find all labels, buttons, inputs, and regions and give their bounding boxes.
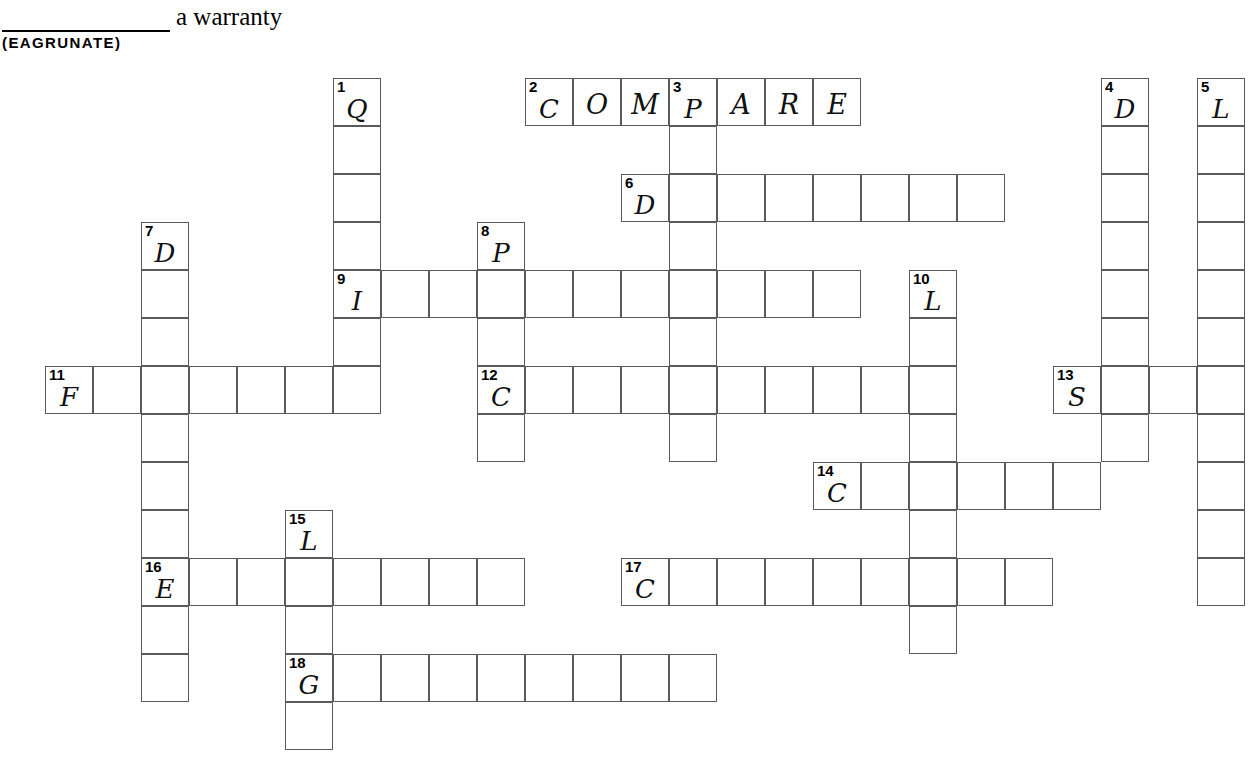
crossword-cell[interactable] [477,654,525,702]
crossword-cell[interactable] [429,558,477,606]
crossword-cell[interactable] [957,462,1005,510]
crossword-cell[interactable] [1197,558,1245,606]
crossword-cell[interactable] [909,174,957,222]
crossword-cell[interactable] [237,558,285,606]
crossword-cell[interactable] [141,654,189,702]
crossword-cell[interactable]: 9I [333,270,381,318]
crossword-cell[interactable] [1101,126,1149,174]
crossword-cell[interactable] [285,558,333,606]
crossword-cell[interactable] [381,270,429,318]
crossword-cell[interactable] [1197,414,1245,462]
crossword-cell[interactable] [333,654,381,702]
crossword-cell[interactable] [477,558,525,606]
crossword-cell[interactable] [717,558,765,606]
crossword-cell[interactable] [525,270,573,318]
crossword-cell[interactable]: 2C [525,78,573,126]
crossword-cell[interactable] [621,654,669,702]
crossword-cell[interactable] [1197,366,1245,414]
crossword-cell[interactable] [669,366,717,414]
crossword-cell[interactable] [477,318,525,366]
crossword-cell[interactable] [141,606,189,654]
crossword-cell[interactable] [381,558,429,606]
crossword-cell[interactable] [1101,414,1149,462]
crossword-cell[interactable] [861,462,909,510]
crossword-cell[interactable] [957,558,1005,606]
crossword-cell[interactable] [909,510,957,558]
crossword-cell[interactable] [477,270,525,318]
crossword-cell[interactable]: 8P [477,222,525,270]
crossword-cell[interactable] [669,654,717,702]
crossword-cell[interactable] [285,366,333,414]
crossword-cell[interactable] [669,414,717,462]
crossword-cell[interactable] [669,270,717,318]
crossword-cell[interactable]: 11F [45,366,93,414]
crossword-cell[interactable] [909,414,957,462]
crossword-cell[interactable] [861,366,909,414]
crossword-cell[interactable] [1197,222,1245,270]
crossword-cell[interactable]: 3P [669,78,717,126]
crossword-cell[interactable]: 6D [621,174,669,222]
crossword-cell[interactable] [669,126,717,174]
crossword-cell[interactable] [1197,174,1245,222]
crossword-cell[interactable] [813,174,861,222]
crossword-cell[interactable]: 5L [1197,78,1245,126]
crossword-cell[interactable] [813,366,861,414]
crossword-cell[interactable] [1101,222,1149,270]
crossword-cell[interactable]: A [717,78,765,126]
crossword-cell[interactable] [1005,558,1053,606]
crossword-cell[interactable] [957,174,1005,222]
crossword-cell[interactable] [669,174,717,222]
crossword-cell[interactable] [765,270,813,318]
crossword-cell[interactable]: 7D [141,222,189,270]
crossword-cell[interactable] [237,366,285,414]
crossword-cell[interactable] [525,654,573,702]
crossword-cell[interactable] [765,174,813,222]
crossword-cell[interactable]: R [765,78,813,126]
crossword-cell[interactable] [813,270,861,318]
crossword-cell[interactable] [141,318,189,366]
crossword-cell[interactable] [285,606,333,654]
crossword-cell[interactable]: 17C [621,558,669,606]
crossword-cell[interactable] [189,366,237,414]
crossword-cell[interactable] [141,270,189,318]
crossword-cell[interactable] [429,270,477,318]
crossword-cell[interactable] [1197,510,1245,558]
crossword-cell[interactable] [189,558,237,606]
crossword-cell[interactable] [381,654,429,702]
crossword-cell[interactable] [717,174,765,222]
crossword-cell[interactable] [1101,174,1149,222]
crossword-cell[interactable] [861,174,909,222]
crossword-cell[interactable] [1101,366,1149,414]
crossword-cell[interactable] [1101,318,1149,366]
crossword-cell[interactable] [333,174,381,222]
crossword-cell[interactable] [573,270,621,318]
crossword-cell[interactable] [909,318,957,366]
crossword-cell[interactable] [621,366,669,414]
crossword-cell[interactable] [333,222,381,270]
crossword-cell[interactable] [621,270,669,318]
crossword-cell[interactable]: O [573,78,621,126]
crossword-cell[interactable] [765,366,813,414]
crossword-cell[interactable]: M [621,78,669,126]
crossword-cell[interactable] [1197,462,1245,510]
crossword-cell[interactable]: 4D [1101,78,1149,126]
crossword-cell[interactable] [333,318,381,366]
crossword-cell[interactable] [909,462,957,510]
crossword-cell[interactable] [429,654,477,702]
crossword-cell[interactable]: 1Q [333,78,381,126]
crossword-cell[interactable] [669,318,717,366]
crossword-cell[interactable]: 14C [813,462,861,510]
crossword-cell[interactable] [1197,270,1245,318]
crossword-cell[interactable] [861,558,909,606]
crossword-cell[interactable] [1101,270,1149,318]
crossword-cell[interactable] [141,462,189,510]
crossword-cell[interactable] [1149,366,1197,414]
crossword-cell[interactable] [765,558,813,606]
crossword-cell[interactable] [717,366,765,414]
crossword-cell[interactable] [333,126,381,174]
crossword-cell[interactable]: 15L [285,510,333,558]
crossword-cell[interactable] [333,558,381,606]
crossword-cell[interactable] [333,366,381,414]
crossword-cell[interactable] [813,558,861,606]
crossword-cell[interactable] [1053,462,1101,510]
